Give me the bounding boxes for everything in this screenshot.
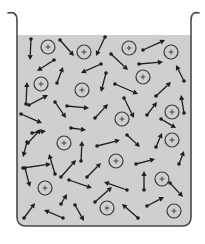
beaker-diagram [0,0,205,244]
